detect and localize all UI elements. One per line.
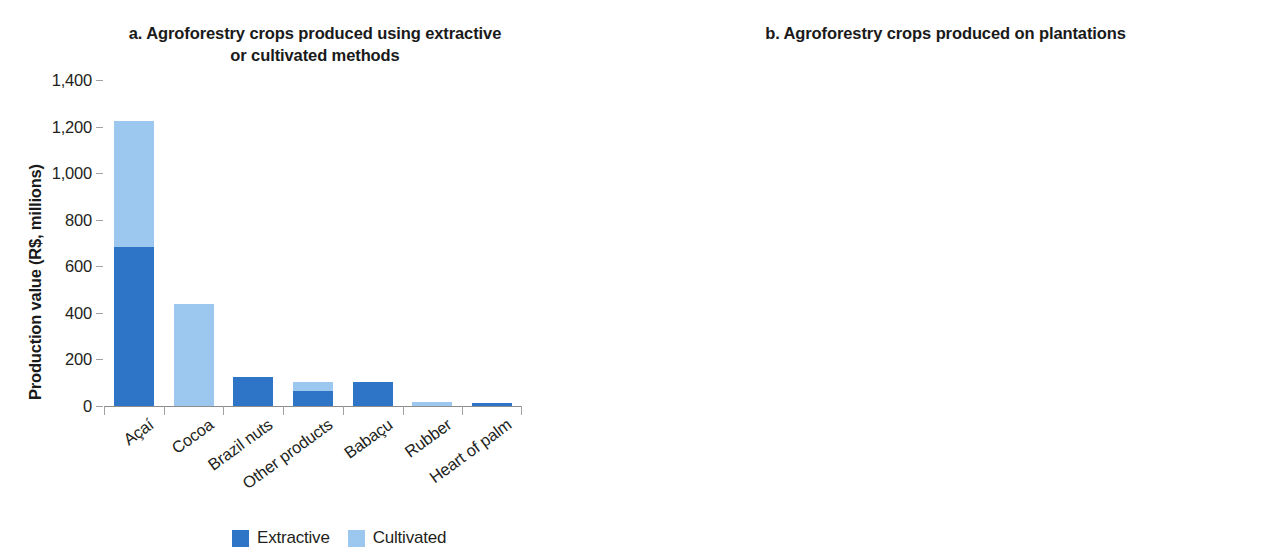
y-axis-tick bbox=[96, 313, 103, 314]
bar[interactable] bbox=[412, 402, 452, 406]
x-axis-tick bbox=[462, 406, 463, 415]
y-axis-tick-label: 1,200 bbox=[52, 117, 92, 136]
legend-label: Extractive bbox=[257, 528, 330, 548]
bar[interactable] bbox=[293, 382, 333, 406]
x-axis-tick bbox=[521, 406, 522, 415]
x-axis-tick-label: Açaí bbox=[120, 415, 157, 449]
bar-group[interactable]: Other products bbox=[283, 382, 343, 406]
figure-agroforestry-production-value: a. Agroforestry crops produced using ext… bbox=[0, 0, 1261, 556]
panel-b-plantations: b. Agroforestry crops produced on planta… bbox=[630, 0, 1261, 556]
bar[interactable] bbox=[174, 304, 214, 406]
bar-segment-cultivated bbox=[174, 304, 214, 406]
x-axis-tick bbox=[403, 406, 404, 415]
y-axis-tick bbox=[96, 359, 103, 360]
bar-segment-cultivated bbox=[412, 402, 452, 406]
bar-group[interactable]: Açaí bbox=[104, 121, 164, 406]
x-axis-tick bbox=[283, 406, 284, 415]
panel-a-title-line1: a. Agroforestry crops produced using ext… bbox=[129, 24, 501, 42]
legend-swatch-icon bbox=[348, 530, 365, 547]
y-axis-tick-label: 1,000 bbox=[52, 164, 92, 183]
y-axis-tick bbox=[96, 80, 103, 81]
x-axis-tick-label: Cocoa bbox=[168, 415, 217, 458]
bar[interactable] bbox=[114, 121, 154, 406]
legend-label: Cultivated bbox=[373, 528, 447, 548]
bar-segment-extractive bbox=[293, 391, 333, 406]
legend: ExtractiveCultivated bbox=[232, 528, 446, 548]
y-axis-tick-label: 200 bbox=[65, 350, 92, 369]
legend-item[interactable]: Cultivated bbox=[348, 528, 447, 548]
bar-group[interactable]: Brazil nuts bbox=[223, 377, 283, 406]
y-axis-tick-label: 600 bbox=[65, 257, 92, 276]
panel-a-x-axis-line bbox=[104, 406, 522, 407]
panel-a-y-axis-title: Production value (R$, millions) bbox=[26, 164, 45, 400]
panel-b-title: b. Agroforestry crops produced on planta… bbox=[630, 22, 1261, 44]
panel-a-plot-area: 02004006008001,0001,2001,400AçaíCocoaBra… bbox=[104, 80, 522, 406]
bar-segment-extractive bbox=[472, 403, 512, 406]
bar-group[interactable]: Heart of palm bbox=[462, 403, 522, 406]
bar-segment-extractive bbox=[233, 377, 273, 406]
panel-a-extractive-cultivated: a. Agroforestry crops produced using ext… bbox=[0, 0, 630, 556]
bar[interactable] bbox=[353, 382, 393, 406]
bar-group[interactable]: Cocoa bbox=[164, 304, 224, 406]
y-axis-tick bbox=[96, 173, 103, 174]
legend-item[interactable]: Extractive bbox=[232, 528, 330, 548]
y-axis-tick bbox=[96, 266, 103, 267]
legend-swatch-icon bbox=[232, 530, 249, 547]
bar-segment-cultivated bbox=[293, 382, 333, 391]
y-axis-tick-label: 800 bbox=[65, 210, 92, 229]
bar-group[interactable]: Babaçu bbox=[343, 382, 403, 406]
bar-group[interactable]: Rubber bbox=[403, 402, 463, 406]
bar-segment-extractive bbox=[353, 382, 393, 406]
y-axis-tick bbox=[96, 220, 103, 221]
x-axis-tick bbox=[223, 406, 224, 415]
panel-a-title: a. Agroforestry crops produced using ext… bbox=[0, 22, 630, 67]
x-axis-tick-label: Babaçu bbox=[340, 415, 395, 463]
panel-b-title-line1: b. Agroforestry crops produced on planta… bbox=[765, 24, 1126, 42]
y-axis-tick bbox=[96, 406, 103, 407]
y-axis-tick bbox=[96, 127, 103, 128]
x-axis-tick bbox=[104, 406, 105, 415]
bar[interactable] bbox=[472, 403, 512, 406]
panel-a-title-line2: or cultivated methods bbox=[230, 46, 399, 64]
bar-segment-extractive bbox=[114, 247, 154, 406]
bar-segment-cultivated bbox=[114, 121, 154, 247]
y-axis-tick-label: 1,400 bbox=[52, 71, 92, 90]
x-axis-tick bbox=[164, 406, 165, 415]
y-axis-tick-label: 0 bbox=[83, 397, 92, 416]
x-axis-tick bbox=[343, 406, 344, 415]
y-axis-tick-label: 400 bbox=[65, 303, 92, 322]
bar[interactable] bbox=[233, 377, 273, 406]
